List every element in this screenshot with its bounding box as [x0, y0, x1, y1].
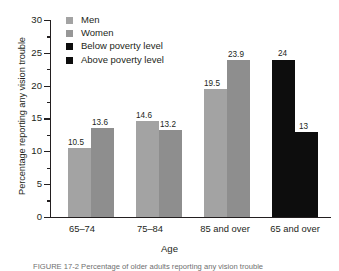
figure-caption: FIGURE 17-2 Percentage of older adults r… — [33, 262, 333, 271]
x-category-label-65-74: 65–74 — [56, 223, 108, 234]
bar-label-women-85-and-over: 23.9 — [228, 50, 244, 59]
x-category-label-65-and-over: 65 and over — [256, 223, 334, 234]
legend-label-above-poverty: Above poverty level — [81, 54, 164, 65]
bar-women-75-84[interactable] — [159, 130, 182, 217]
y-tick-label-25: 25 — [16, 47, 42, 58]
legend-label-below-poverty: Below poverty level — [81, 40, 163, 51]
bar-above-poverty-65-and-over[interactable] — [295, 132, 318, 217]
bar-men-65-74[interactable] — [68, 148, 91, 217]
y-tick-label-10: 10 — [16, 145, 42, 156]
bar-men-85-and-over[interactable] — [204, 89, 227, 217]
y-tick-labels: 30 25 20 15 10 5 0 — [14, 0, 42, 269]
legend-label-women: Women — [81, 27, 114, 38]
y-tick-label-0: 0 — [16, 211, 42, 222]
x-category-label-85-and-over: 85 and over — [186, 223, 264, 234]
bar-men-75-84[interactable] — [136, 121, 159, 217]
x-axis-title: Age — [0, 243, 339, 254]
bar-below-poverty-65-and-over[interactable] — [272, 60, 295, 217]
legend-swatch-above-poverty-icon — [66, 57, 73, 64]
bar-label-women-75-84: 13.2 — [160, 120, 176, 129]
bar-label-above-poverty: 13 — [299, 122, 308, 131]
y-tick-label-20: 20 — [16, 80, 42, 91]
bar-label-women-65-74: 13.6 — [92, 118, 108, 127]
legend-label-men: Men — [81, 14, 99, 25]
legend-swatch-below-poverty-icon — [66, 43, 73, 50]
bar-women-85-and-over[interactable] — [227, 60, 250, 217]
legend-swatch-women-icon — [66, 30, 73, 37]
bar-women-65-74[interactable] — [91, 128, 114, 217]
x-category-label-75-84: 75–84 — [124, 223, 176, 234]
y-tick-label-5: 5 — [16, 178, 42, 189]
bar-label-men-75-84: 14.6 — [136, 111, 152, 120]
legend-swatch-men-icon — [66, 17, 73, 24]
y-tick-label-30: 30 — [16, 14, 42, 25]
bar-label-below-poverty: 24 — [278, 49, 287, 58]
y-tick-label-15: 15 — [16, 112, 42, 123]
bar-label-men-65-74: 10.5 — [68, 138, 84, 147]
bar-label-men-85-and-over: 19.5 — [204, 79, 220, 88]
